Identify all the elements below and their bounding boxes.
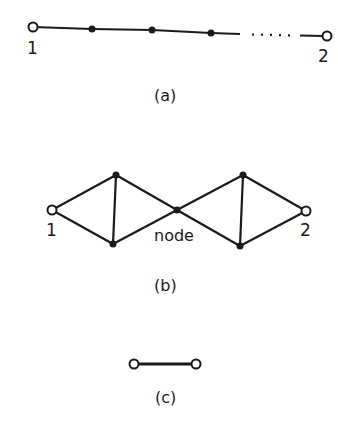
filled-node: [149, 27, 156, 34]
figure-c: [130, 360, 201, 369]
label-a-start: 1: [27, 40, 38, 57]
figure-a-nodes: [89, 26, 215, 37]
label-b-end: 2: [300, 222, 311, 239]
label-b-node: node: [154, 228, 194, 244]
caption-c: (c): [155, 390, 176, 406]
label-b-start: 1: [46, 222, 57, 239]
caption-b: (b): [154, 278, 177, 294]
center-node: [174, 207, 181, 214]
terminal-node-2: [323, 32, 332, 41]
filled-node: [208, 30, 215, 37]
terminal-node-1: [29, 23, 38, 32]
caption-a: (a): [154, 88, 176, 104]
figure-a-edges: [33, 27, 323, 36]
label-a-end: 2: [318, 48, 329, 65]
diagram-canvas: [0, 0, 338, 427]
filled-node: [89, 26, 96, 33]
